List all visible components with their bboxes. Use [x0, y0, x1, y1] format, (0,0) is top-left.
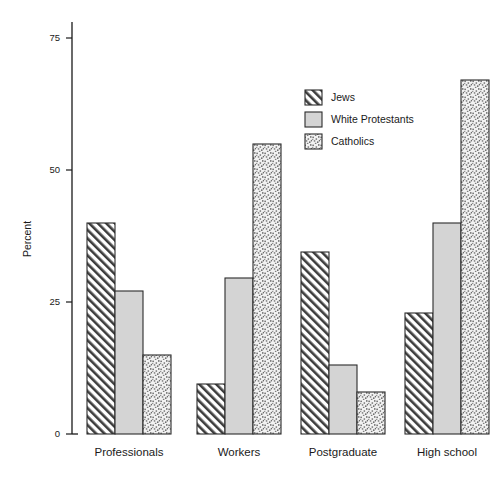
legend: Jews White Protestants Catholics: [305, 90, 414, 149]
bar-group-postgraduate: Postgraduate: [301, 252, 385, 458]
bar-professionals-white-protestants: [115, 291, 143, 434]
bar-professionals-catholics: [143, 355, 171, 434]
bar-chart-figure: 0 25 50 75 Percent Professionals Workers…: [0, 0, 504, 481]
x-category-label-professionals: Professionals: [94, 446, 163, 458]
y-tick-label-25: 25: [49, 296, 60, 307]
y-tick-label-50: 50: [49, 164, 60, 175]
legend-label-jews: Jews: [331, 91, 355, 103]
y-tick-label-75: 75: [49, 32, 60, 43]
legend-item-jews: Jews: [305, 90, 355, 105]
bar-high-school-white-protestants: [433, 223, 461, 434]
bar-group-professionals: Professionals: [87, 223, 171, 458]
x-category-label-workers: Workers: [218, 446, 261, 458]
bar-group-high-school: High school: [405, 80, 489, 458]
legend-swatch-catholics-icon: [305, 134, 322, 149]
chart-canvas: 0 25 50 75 Percent Professionals Workers…: [0, 0, 504, 481]
y-axis: 0 25 50 75 Percent: [21, 22, 78, 439]
legend-label-white-protestants: White Protestants: [331, 113, 414, 125]
legend-swatch-jews-icon: [305, 90, 322, 105]
bar-workers-catholics: [253, 144, 281, 434]
legend-swatch-white-protestants-icon: [305, 112, 322, 127]
bar-postgraduate-catholics: [357, 392, 385, 434]
bar-postgraduate-white-protestants: [329, 365, 357, 434]
legend-item-white-protestants: White Protestants: [305, 112, 414, 127]
bar-professionals-jews: [87, 223, 115, 434]
y-axis-title: Percent: [21, 221, 33, 257]
bar-high-school-jews: [405, 313, 433, 434]
bar-group-workers: Workers: [197, 144, 281, 458]
legend-item-catholics: Catholics: [305, 134, 374, 149]
legend-label-catholics: Catholics: [331, 135, 374, 147]
bar-high-school-catholics: [461, 80, 489, 434]
bar-postgraduate-jews: [301, 252, 329, 434]
y-tick-label-0: 0: [55, 428, 60, 439]
bar-workers-white-protestants: [225, 278, 253, 434]
x-category-label-postgraduate: Postgraduate: [309, 446, 377, 458]
x-category-label-high-school: High school: [417, 446, 477, 458]
bar-workers-jews: [197, 384, 225, 434]
